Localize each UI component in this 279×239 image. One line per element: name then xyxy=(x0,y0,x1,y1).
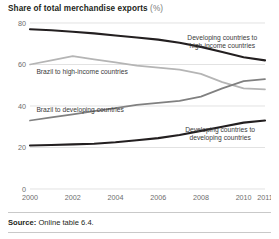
annotation-line: high-income countries xyxy=(190,42,256,50)
x-tick-label: 2010 xyxy=(236,193,252,202)
plot-area: 020406080 2000200220042006200820102011 D… xyxy=(8,17,271,209)
page-title: Share of total merchandise exports (%) xyxy=(8,4,163,13)
x-tick-label: 2011 xyxy=(257,193,271,202)
source-note: Source: Online table 6.4. xyxy=(8,218,94,227)
chart-title-unit: (%) xyxy=(150,4,163,13)
x-tick-label: 2008 xyxy=(193,193,209,202)
chart-figure: Share of total merchandise exports (%) 0… xyxy=(0,0,279,239)
x-tick-label: 2000 xyxy=(22,193,38,202)
annotation-line: Developing countries to xyxy=(187,34,257,42)
series-annotation-3: Developing countries todeveloping countr… xyxy=(185,126,255,142)
y-axis-tick-labels: 020406080 xyxy=(18,19,26,194)
annotation-line: Developing countries to xyxy=(185,126,255,134)
annotation-line: Brazil to high-income countries xyxy=(36,68,128,76)
chart-title-main: Share of total merchandise exports xyxy=(8,4,148,13)
bottom-divider xyxy=(8,232,271,233)
source-label: Source: xyxy=(8,218,36,227)
y-tick-label: 40 xyxy=(18,102,26,111)
source-text: Online table 6.4. xyxy=(38,218,93,227)
y-tick-label: 20 xyxy=(18,143,26,152)
x-axis-tick-labels: 2000200220042006200820102011 xyxy=(22,193,271,202)
series-annotation-2: Brazil to developing countries xyxy=(36,106,124,114)
x-tick-label: 2004 xyxy=(107,193,123,202)
line-chart-svg: 020406080 2000200220042006200820102011 D… xyxy=(8,17,271,209)
annotation-line: Brazil to developing countries xyxy=(36,106,124,114)
y-tick-label: 60 xyxy=(18,60,26,69)
x-tick-label: 2006 xyxy=(150,193,166,202)
y-tick-label: 80 xyxy=(18,19,26,28)
series-annotation-1: Brazil to high-income countries xyxy=(36,68,128,76)
series-line-2 xyxy=(30,79,265,121)
series-annotation-0: Developing countries tohigh-income count… xyxy=(187,34,257,50)
annotation-line: developing countries xyxy=(189,134,251,142)
x-tick-label: 2002 xyxy=(65,193,81,202)
footer-divider xyxy=(8,212,271,213)
